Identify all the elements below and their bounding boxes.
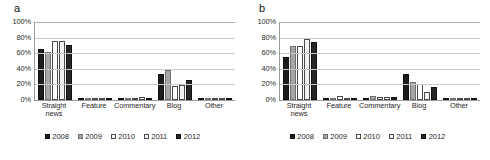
bar [464,98,470,100]
y-tick-label: 20% [262,81,277,88]
bar-group [78,22,113,100]
bar [132,98,138,100]
legend-item: 2012 [421,133,445,141]
legend-item: 2011 [144,133,167,141]
gridline [280,84,480,85]
legend-swatch-icon [176,134,181,139]
legend-item: 2012 [176,133,200,141]
panel-a-label: a [14,3,20,14]
x-tick-label: Feature [74,102,114,126]
x-tick-label: Other [194,102,234,126]
bar-group [403,22,438,100]
bar [443,98,449,100]
bar [92,98,98,100]
panel-a-bar-groups [35,22,235,100]
bar [205,98,211,100]
y-tick-label: 0% [266,96,276,103]
y-tick-label: 40% [17,65,32,72]
gridline [35,53,235,54]
legend-label: 2011 [396,133,412,141]
legend-item: 2009 [78,133,102,141]
x-tick-label: Blog [154,102,194,126]
bar [351,98,357,100]
gridline [280,22,480,23]
x-tick-label: Commentary [114,102,154,126]
legend-label: 2008 [52,133,69,141]
bar [370,96,376,100]
bar [78,98,84,100]
panel-b: b 100%80%60%40%20%0% Straight newsFeatur… [245,0,490,160]
legend-swatch-icon [78,134,83,139]
bar [85,98,91,100]
bar [391,97,397,100]
legend-label: 2011 [151,133,167,141]
bar [384,97,390,100]
bar [337,96,343,100]
x-tick-label: Commentary [359,102,399,126]
panel-b-plot-area [279,22,480,101]
legend-item: 2009 [323,133,347,141]
panel-b-plot-wrap: 100%80%60%40%20%0% Straight newsFeatureC… [245,22,490,117]
bar [219,98,225,100]
figure-two-panel-bar-charts: a 100%80%60%40%20%0% Straight newsFeatur… [0,0,490,160]
bar [226,98,232,100]
panel-a-legend: 20082009201020112012 [0,133,245,141]
panel-a-y-axis-labels: 100%80%60%40%20%0% [0,22,33,100]
bar [139,97,145,100]
legend-swatch-icon [144,134,149,139]
bar [212,98,218,100]
y-tick-label: 60% [262,49,277,56]
bar [471,98,477,100]
bar [290,46,296,100]
y-tick-label: 100% [257,18,276,25]
panel-a-plot-wrap: 100%80%60%40%20%0% Straight newsFeatureC… [0,22,245,117]
bar [99,98,105,100]
legend-swatch-icon [111,134,116,139]
legend-item: 2008 [290,133,314,141]
bar [45,52,51,100]
panel-b-y-axis-labels: 100%80%60%40%20%0% [245,22,278,100]
gridline [280,69,480,70]
y-tick-label: 60% [17,49,32,56]
x-tick-label: Other [439,102,479,126]
bar [344,98,350,100]
gridline [35,22,235,23]
legend-swatch-icon [389,134,394,139]
bar [457,98,463,100]
gridline [35,69,235,70]
legend-item: 2010 [111,133,135,141]
bar [52,41,58,100]
bar-group [38,22,73,100]
panel-b-bar-groups [280,22,480,100]
bar-group [198,22,233,100]
panel-b-x-axis-labels: Straight newsFeatureCommentaryBlogOther [279,102,479,126]
bar [431,87,437,100]
bar [311,42,317,100]
panel-b-label: b [259,3,265,14]
bar [363,98,369,100]
legend-label: 2009 [85,133,102,141]
legend-label: 2012 [184,133,201,141]
bar [106,98,112,100]
bar [118,98,124,100]
bar [323,98,329,100]
bar [424,92,430,100]
bar [158,74,164,100]
panel-b-legend: 20082009201020112012 [245,133,490,141]
legend-label: 2010 [363,133,380,141]
x-tick-label: Straight news [34,102,74,126]
bar [417,84,423,100]
legend-swatch-icon [290,134,295,139]
y-tick-label: 20% [17,81,32,88]
legend-swatch-icon [45,134,50,139]
panel-a: a 100%80%60%40%20%0% Straight newsFeatur… [0,0,245,160]
legend-item: 2008 [45,133,69,141]
y-tick-label: 100% [12,18,31,25]
bar [450,98,456,100]
gridline [35,84,235,85]
bar [330,98,336,100]
bar [179,85,185,100]
bar [186,80,192,100]
x-tick-label: Feature [319,102,359,126]
bar-group [118,22,153,100]
